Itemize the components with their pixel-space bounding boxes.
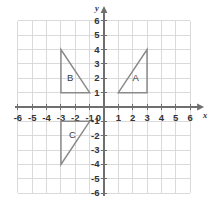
- y-axis-name-label: y: [94, 3, 99, 13]
- x-axis-name-label: x: [202, 110, 208, 120]
- x-tick-label: 3: [144, 112, 149, 123]
- y-tick-label: 1: [94, 87, 100, 98]
- y-tick-label: -4: [91, 158, 100, 169]
- y-tick-label: 6: [94, 15, 99, 26]
- triangle-label-c: C: [69, 129, 76, 140]
- y-tick-label: 2: [94, 72, 99, 83]
- y-tick-label: -6: [91, 187, 99, 198]
- x-tick-label: -4: [42, 112, 51, 123]
- y-tick-label: 4: [94, 44, 100, 55]
- x-tick-label: -5: [28, 112, 37, 123]
- x-tick-label: 6: [187, 112, 192, 123]
- origin-label: 0: [96, 112, 101, 123]
- x-tick-label: 1: [116, 112, 122, 123]
- x-tick-label: 4: [159, 112, 165, 123]
- y-axis-arrowhead: [101, 6, 108, 13]
- coordinate-plane-figure: -6-5-4-3-2-1123456654321-1-2-3-4-5-60 AB…: [0, 0, 212, 214]
- y-tick-label: 3: [94, 58, 99, 69]
- y-tick-label: 5: [94, 29, 100, 40]
- x-tick-label: 5: [173, 112, 179, 123]
- axis-names-group: xy: [94, 3, 208, 120]
- y-tick-label: -2: [91, 130, 99, 141]
- y-tick-label: -5: [91, 173, 100, 184]
- triangle-labels-group: ABC: [67, 72, 139, 140]
- x-tick-label: -6: [14, 112, 22, 123]
- y-tick-label: -3: [91, 144, 99, 155]
- coordinate-plane-svg: -6-5-4-3-2-1123456654321-1-2-3-4-5-60 AB…: [0, 0, 212, 214]
- triangle-label-a: A: [132, 72, 139, 83]
- x-tick-label: 2: [130, 112, 135, 123]
- triangle-label-b: B: [67, 72, 73, 83]
